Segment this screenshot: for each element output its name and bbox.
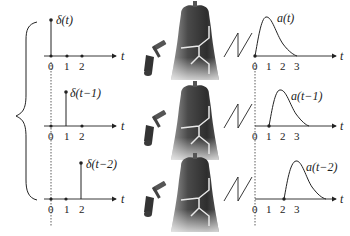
svg-text:1: 1: [266, 130, 272, 142]
svg-text:t: t: [340, 49, 344, 63]
svg-text:t: t: [340, 192, 344, 206]
input-plot-row-3: δ(t−2) t 0 1 2: [44, 157, 125, 215]
hammer-icon: [144, 181, 167, 217]
svg-text:2: 2: [280, 60, 286, 72]
hammer-icon: [144, 110, 167, 146]
input-plot-row-2: δ(t−1) t 0 1 2: [44, 86, 125, 142]
output-plot-row-1: a(t) t 0 1 2 3: [252, 11, 344, 72]
bell-icon: [171, 1, 219, 80]
input-label: δ(t): [56, 13, 73, 27]
svg-text:1: 1: [266, 60, 272, 72]
svg-text:t: t: [340, 119, 344, 133]
output-label: a(t−1): [291, 89, 322, 103]
impulse-response-diagram: δ(t) t 0 1 2 δ(t−1) t 0 1 2 δ(t−2) t 0 1…: [0, 0, 350, 236]
output-label: a(t−2): [306, 160, 337, 174]
svg-text:0: 0: [252, 203, 258, 215]
lightning-icon: [224, 177, 252, 201]
svg-text:0: 0: [48, 203, 54, 215]
svg-text:t: t: [121, 49, 125, 63]
output-plot-row-3: a(t−2) t 0 1 2 3: [252, 160, 344, 215]
input-label: δ(t−2): [86, 157, 117, 171]
lightning-icon: [224, 104, 252, 128]
svg-text:1: 1: [64, 130, 70, 142]
svg-text:t: t: [121, 192, 125, 206]
svg-text:1: 1: [266, 203, 272, 215]
input-label: δ(t−1): [70, 86, 101, 100]
output-label: a(t): [277, 11, 294, 25]
svg-text:0: 0: [48, 130, 54, 142]
svg-text:3: 3: [294, 60, 300, 72]
hammer-icon: [144, 40, 167, 76]
svg-text:t: t: [121, 119, 125, 133]
svg-text:3: 3: [294, 130, 300, 142]
svg-text:3: 3: [294, 203, 300, 215]
svg-text:0: 0: [252, 130, 258, 142]
lightning-icon: [224, 33, 252, 57]
svg-text:0: 0: [48, 60, 54, 72]
svg-text:2: 2: [280, 203, 286, 215]
svg-text:2: 2: [79, 60, 85, 72]
svg-text:1: 1: [64, 203, 70, 215]
svg-text:1: 1: [64, 60, 70, 72]
brace-icon: [16, 22, 37, 200]
bell-icon: [171, 153, 219, 232]
svg-text:2: 2: [280, 130, 286, 142]
bell-icon: [171, 81, 219, 160]
output-plot-row-2: a(t−1) t 0 1 2 3: [252, 89, 344, 142]
input-plot-row-1: δ(t) t 0 1 2: [44, 13, 125, 72]
svg-text:2: 2: [79, 130, 85, 142]
svg-text:2: 2: [79, 203, 85, 215]
svg-text:0: 0: [252, 60, 258, 72]
